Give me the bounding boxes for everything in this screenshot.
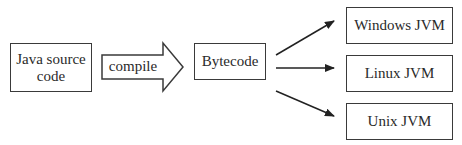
java-source-line1: Java source xyxy=(16,51,86,68)
unix-jvm-node: Unix JVM xyxy=(346,103,453,140)
windows-jvm-label: Windows JVM xyxy=(354,17,445,34)
java-source-node: Java source code xyxy=(10,43,92,92)
compile-label: compile xyxy=(104,58,162,75)
arrow-to-windows xyxy=(276,21,334,55)
unix-jvm-label: Unix JVM xyxy=(368,113,432,130)
windows-jvm-node: Windows JVM xyxy=(346,7,453,44)
java-source-line2: code xyxy=(37,68,65,85)
linux-jvm-label: Linux JVM xyxy=(365,65,435,82)
bytecode-label: Bytecode xyxy=(202,53,259,70)
arrow-to-unix xyxy=(276,91,334,116)
bytecode-node: Bytecode xyxy=(194,43,266,80)
linux-jvm-node: Linux JVM xyxy=(346,55,453,92)
